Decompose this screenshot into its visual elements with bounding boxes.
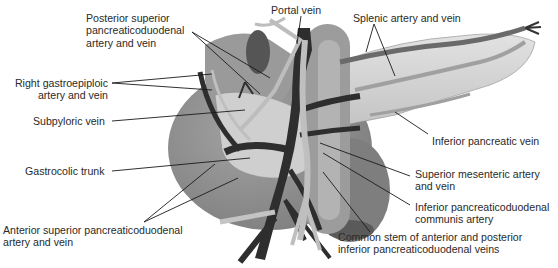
label-line: Right gastroepiploic	[10, 77, 108, 89]
label-line: Gastrocolic trunk	[25, 165, 104, 177]
label-line: Superior mesenteric artery	[415, 168, 540, 180]
label-common-stem: Common stem of anterior and posterior in…	[338, 231, 522, 256]
label-line: Portal vein	[271, 4, 321, 16]
label-right-gastroepiploic: Right gastroepiploic artery and vein	[10, 77, 108, 102]
label-line: pancreaticoduodenal	[86, 24, 184, 36]
label-line: inferior pancreaticoduodenal veins	[338, 243, 522, 255]
pancreas-body-tail	[345, 34, 535, 125]
label-posterior-superior-pancreaticoduodenal: Posterior superior pancreaticoduodenal a…	[86, 12, 184, 49]
label-subpyloric-vein: Subpyloric vein	[33, 115, 105, 127]
label-inferior-pancreatic-vein: Inferior pancreatic vein	[432, 135, 539, 147]
label-line: and vein	[415, 180, 540, 192]
label-superior-mesenteric: Superior mesenteric artery and vein	[415, 168, 540, 193]
label-gastrocolic-trunk: Gastrocolic trunk	[25, 165, 104, 177]
label-line: Splenic artery and vein	[353, 12, 461, 24]
label-line: Subpyloric vein	[33, 115, 105, 127]
label-line: Common stem of anterior and posterior	[338, 231, 522, 243]
label-line: communis artery	[415, 213, 549, 225]
label-line: Inferior pancreaticoduodenal	[415, 201, 549, 213]
label-splenic-artery-vein: Splenic artery and vein	[353, 12, 461, 24]
label-line: artery and vein	[86, 37, 184, 49]
label-inferior-pancreaticoduodenal-communis: Inferior pancreaticoduodenal communis ar…	[415, 201, 549, 226]
label-portal-vein: Portal vein	[271, 4, 321, 16]
label-line: Inferior pancreatic vein	[432, 135, 539, 147]
label-line: artery and vein	[10, 89, 108, 101]
label-line: artery and vein	[3, 236, 183, 248]
label-line: Posterior superior	[86, 12, 184, 24]
label-anterior-superior-pancreaticoduodenal: Anterior superior pancreaticoduodenal ar…	[3, 224, 183, 249]
label-line: Anterior superior pancreaticoduodenal	[3, 224, 183, 236]
